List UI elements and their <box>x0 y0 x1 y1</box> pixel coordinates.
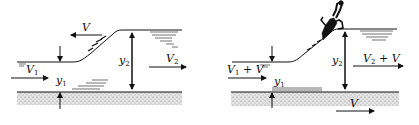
left-panel: V y1 V1 y2 V2 <box>11 21 186 109</box>
surfer-figure <box>321 1 343 40</box>
jump-turbulence <box>307 40 321 50</box>
channel-bed <box>17 92 182 105</box>
bed-velocity-label: V <box>350 97 359 110</box>
jump-turbulence <box>88 36 106 51</box>
upstream-relative-velocity-label: V1 + V <box>227 63 265 77</box>
right-panel: y1 V1 + V y2 V2 + V V <box>227 1 403 111</box>
jump-velocity-label: V <box>82 21 91 34</box>
y2-label: y2 <box>331 54 343 68</box>
y2-label: y2 <box>118 54 130 68</box>
y1-label: y1 <box>273 75 285 89</box>
downstream-velocity-label: V2 <box>166 52 178 66</box>
channel-bed <box>231 92 399 106</box>
downstream-relative-velocity-label: V2 + V <box>363 52 401 66</box>
upstream-velocity-label: V1 <box>26 63 38 77</box>
hydraulic-jump-diagram: V y1 V1 y2 V2 <box>0 0 419 125</box>
y1-label: y1 <box>55 74 67 88</box>
